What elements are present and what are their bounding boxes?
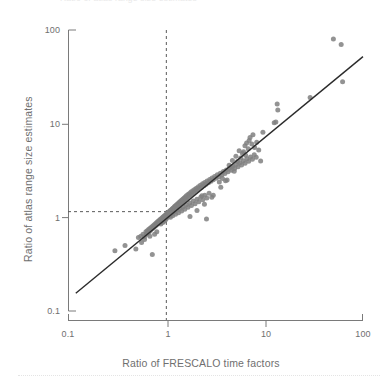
y-tick-label-0.1: 0.1 [34, 306, 60, 316]
x-axis-spine [68, 314, 363, 327]
scatter-point [254, 155, 259, 160]
figure-root: Ratio of atlas range size estimates [0, 0, 390, 385]
x-tick-label-1: 1 [165, 329, 170, 339]
scatter-point [194, 208, 199, 213]
y-axis-spine [62, 30, 76, 311]
scatter-points-layer [112, 37, 345, 258]
scatter-point [187, 214, 192, 219]
y-axis-title: Ratio of atlas range size estimates [22, 96, 34, 262]
scatter-point [202, 202, 207, 207]
x-tick-label-100: 100 [355, 329, 370, 339]
x-tick-label-10: 10 [261, 329, 271, 339]
scatter-point [232, 169, 237, 174]
y-tick-label-100: 100 [34, 25, 60, 35]
scatter-point [233, 154, 238, 159]
scatter-point [256, 147, 261, 152]
scatter-point [340, 79, 345, 84]
scatter-point [204, 216, 209, 221]
scatter-point [225, 178, 230, 183]
scatter-point [258, 158, 263, 163]
scatter-point [275, 107, 280, 112]
scatter-point [133, 246, 138, 251]
scatter-point [237, 148, 242, 153]
scatter-point [250, 132, 255, 137]
scatter-point [260, 130, 265, 135]
fit-line [76, 57, 363, 294]
scatter-point [112, 248, 117, 253]
scatter-plot-canvas [0, 0, 390, 385]
scatter-point [123, 243, 128, 248]
x-axis-title: Ratio of FRESCALO time factors [6, 357, 390, 369]
scatter-point [275, 102, 280, 107]
y-tick-label-1: 1 [34, 213, 60, 223]
scatter-point [204, 195, 209, 200]
reference-lines [68, 30, 166, 320]
bottom-separator-rule [18, 375, 380, 377]
scatter-point [199, 193, 204, 198]
x-tick-label-0.1: 0.1 [62, 329, 75, 339]
scatter-point [150, 252, 155, 257]
scatter-point [331, 37, 336, 42]
scatter-point [209, 195, 214, 200]
scatter-point [273, 120, 278, 125]
scatter-point [339, 42, 344, 47]
y-tick-label-10: 10 [34, 119, 60, 129]
scatter-point [218, 185, 223, 190]
scatter-point [152, 232, 157, 237]
